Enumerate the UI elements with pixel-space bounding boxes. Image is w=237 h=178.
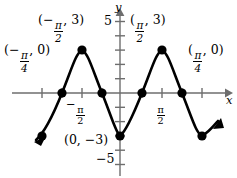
y-axis — [115, 8, 125, 176]
y-value: 0 — [211, 42, 219, 57]
x-tick-label-pi-over-2: π2 — [156, 99, 165, 126]
y-tick-label-minus-5: −5 — [96, 153, 114, 166]
fraction-pi-over-2: π2 — [54, 20, 63, 43]
point-zero-3pi-8 — [177, 88, 186, 97]
point-min-origin — [115, 131, 124, 140]
point-label-peak-right: (π2, 3) — [130, 14, 166, 43]
fraction-pi-over-4: π4 — [193, 50, 202, 73]
close-paren: ) — [79, 12, 84, 27]
y-value: 0 — [37, 42, 45, 57]
point-peak-left — [77, 45, 86, 54]
point-peak-right — [157, 45, 166, 54]
comma: , — [145, 12, 153, 27]
point-zero-neg-pi-4 — [97, 88, 106, 97]
point-left-min — [37, 131, 46, 140]
close-paren: ) — [161, 12, 166, 27]
close-paren: ) — [219, 42, 224, 57]
y-value: 3 — [153, 12, 161, 27]
point-label-peak-left: (−π2, 3) — [38, 14, 84, 43]
comma: , — [203, 42, 211, 57]
close-paren: ) — [45, 42, 50, 57]
y-value: 3 — [71, 12, 79, 27]
fraction-pi-over-2: π2 — [76, 105, 84, 126]
y-axis-label: y — [115, 2, 122, 14]
x-axis — [12, 88, 233, 98]
point-right-min — [197, 131, 206, 140]
graph-figure: y x 5 −5 −π2 π2 (−π2, 3) (π2, 3) (−π4, 0… — [0, 0, 237, 178]
x-axis-label: x — [226, 95, 233, 107]
minus-sign: − — [66, 97, 76, 111]
point-label-zero-right: (π4, 0) — [188, 44, 224, 73]
coordinate-plane-svg — [0, 0, 237, 178]
point-label-zero-left: (−π4, 0) — [4, 44, 50, 73]
minus-sign: − — [9, 42, 19, 57]
open-paren: ( — [188, 42, 193, 57]
fraction-pi-over-4: π4 — [20, 50, 29, 73]
fraction-pi-over-2: π2 — [135, 20, 144, 43]
fraction-pi-over-2: π2 — [157, 105, 165, 126]
point-zero-pi-4 — [137, 88, 146, 97]
open-paren: ( — [130, 12, 135, 27]
y-tick-label-5: 5 — [104, 15, 112, 28]
point-label-minimum-origin: (0, −3) — [64, 134, 108, 147]
x-tick-label-minus-pi-over-2: −π2 — [66, 99, 85, 126]
minus-sign: − — [43, 12, 53, 27]
